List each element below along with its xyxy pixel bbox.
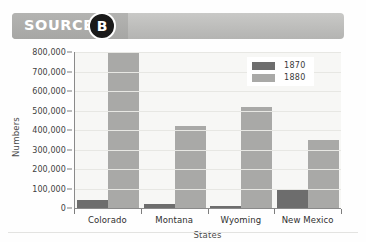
legend-item-1880[interactable]: 1880	[252, 73, 306, 82]
footer-divider	[8, 232, 358, 233]
y-tick-label: 0	[61, 204, 66, 213]
gridline	[75, 111, 341, 112]
y-tick-mark	[67, 110, 72, 111]
source-banner: SOURCE B	[12, 13, 344, 39]
legend-swatch-icon	[252, 74, 275, 82]
gridline	[75, 189, 341, 190]
y-tick-label: 800,000	[32, 48, 66, 57]
gridline	[75, 150, 341, 151]
y-tick-label: 400,000	[32, 126, 66, 135]
y-axis-ticks: 800,000700,000600,000500,000400,000300,0…	[22, 46, 72, 208]
gridline	[75, 52, 341, 53]
bar-chart: Numbers 800,000700,000600,000500,000400,…	[0, 46, 366, 242]
x-tick-mark	[74, 209, 75, 214]
bar-wyoming-1880[interactable]	[241, 107, 272, 208]
y-tick-mark	[67, 149, 72, 150]
x-tick-mark	[208, 209, 209, 214]
y-tick-mark	[67, 169, 72, 170]
gridline	[75, 91, 341, 92]
source-label: SOURCE	[24, 17, 94, 33]
source-badge-letter: B	[90, 14, 114, 38]
legend-swatch-icon	[252, 62, 275, 70]
y-tick-mark	[67, 91, 72, 92]
y-tick-mark	[67, 71, 72, 72]
gridline	[75, 169, 341, 170]
x-tick-label: Montana	[141, 215, 208, 225]
y-tick-mark	[67, 52, 72, 53]
source-b-chart-page: SOURCE B Numbers 800,000700,000600,00050…	[0, 0, 366, 242]
y-tick-mark	[67, 130, 72, 131]
y-tick-label: 600,000	[32, 87, 66, 96]
chart-legend: 18701880	[247, 57, 314, 86]
y-tick-mark	[67, 208, 72, 209]
x-tick-label: Colorado	[74, 215, 141, 225]
legend-item-1870[interactable]: 1870	[252, 61, 306, 70]
y-tick-label: 500,000	[32, 106, 66, 115]
legend-label: 1870	[284, 61, 306, 70]
bar-colorado-1870[interactable]	[77, 200, 108, 208]
bar-montana-1880[interactable]	[175, 126, 206, 208]
y-tick-label: 200,000	[32, 165, 66, 174]
legend-label: 1880	[284, 73, 306, 82]
x-tick-mark	[341, 209, 342, 214]
y-tick-label: 300,000	[32, 145, 66, 154]
x-tick-label: New Mexico	[274, 215, 341, 225]
x-tick-mark	[274, 209, 275, 214]
x-tick-mark	[141, 209, 142, 214]
y-tick-mark	[67, 188, 72, 189]
x-axis-labels: ColoradoMontanaWyomingNew Mexico	[74, 215, 341, 225]
y-tick-label: 700,000	[32, 67, 66, 76]
y-axis-title: Numbers	[11, 97, 21, 177]
y-tick-label: 100,000	[32, 184, 66, 193]
source-badge: B	[88, 12, 116, 40]
x-tick-label: Wyoming	[208, 215, 275, 225]
bar-new-mexico-1870[interactable]	[277, 190, 308, 208]
gridline	[75, 130, 341, 131]
